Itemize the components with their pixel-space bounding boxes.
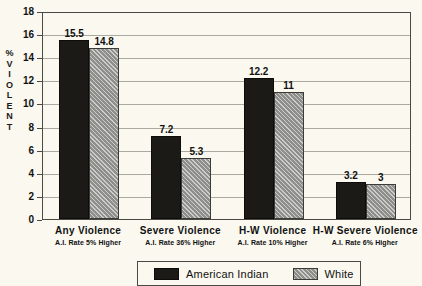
- y-axis-tick-label: 10: [8, 99, 34, 109]
- plot-area: 15.514.87.25.312.2113.23: [42, 12, 411, 220]
- y-axis-tick-label: 0: [8, 215, 34, 225]
- x-axis-category: H-W ViolenceA.I. Rate 10% Higher: [221, 225, 325, 247]
- legend-label: White: [325, 268, 354, 280]
- x-axis-category-note: A.I. Rate 10% Higher: [221, 238, 325, 247]
- y-axis-tick-label: 6: [8, 146, 34, 156]
- x-axis-category-note: A.I. Rate 36% Higher: [128, 238, 232, 247]
- legend-label: American Indian: [186, 268, 269, 280]
- x-axis-category-label: Severe Violence: [128, 225, 232, 236]
- bar-value-label: 14.8: [83, 37, 125, 47]
- bar-american-indian: [244, 78, 274, 219]
- bar-value-label: 5.3: [175, 147, 217, 157]
- bar-value-label: 11: [268, 81, 310, 91]
- bar-value-label: 7.2: [145, 125, 187, 135]
- bar-american-indian: [336, 182, 366, 219]
- x-axis-category-label: H-W Severe Violence: [313, 225, 417, 236]
- bar-white: [274, 92, 304, 219]
- legend-item-white: White: [293, 268, 354, 280]
- x-axis-category-note: A.I. Rate 6% Higher: [313, 238, 417, 247]
- x-axis-category-note: A.I. Rate 5% Higher: [36, 238, 140, 247]
- black-solid-swatch-icon: [154, 268, 179, 280]
- bar-value-label: 12.2: [238, 67, 280, 77]
- bar-chart: %VIOLENT 181614121086420 15.514.87.25.31…: [0, 0, 422, 286]
- y-axis-title-char: N: [3, 111, 16, 122]
- bar-white: [181, 158, 211, 219]
- y-axis-tick-label: 2: [8, 192, 34, 202]
- y-axis-tick-mark: [37, 220, 42, 221]
- x-axis-category: H-W Severe ViolenceA.I. Rate 6% Higher: [313, 225, 417, 247]
- y-axis-tick-label: 16: [8, 30, 34, 40]
- gray-hatched-swatch-icon: [293, 268, 318, 280]
- y-axis-tick-label: 4: [8, 169, 34, 179]
- y-axis-tick-label: 8: [8, 123, 34, 133]
- x-axis-category-label: Any Violence: [36, 225, 140, 236]
- y-axis-tick-label: 12: [8, 76, 34, 86]
- x-axis-category: Any ViolenceA.I. Rate 5% Higher: [36, 225, 140, 247]
- bar-white: [89, 48, 119, 219]
- x-axis-category-label: H-W Violence: [221, 225, 325, 236]
- y-axis-tick-label: 18: [8, 7, 34, 17]
- chart-legend: American Indian White: [137, 261, 361, 286]
- x-axis-category: Severe ViolenceA.I. Rate 36% Higher: [128, 225, 232, 247]
- legend-item-american-indian: American Indian: [154, 268, 269, 280]
- bar-white: [366, 184, 396, 219]
- bar-american-indian: [59, 40, 89, 219]
- bar-value-label: 3: [360, 173, 402, 183]
- y-axis-tick-label: 14: [8, 53, 34, 63]
